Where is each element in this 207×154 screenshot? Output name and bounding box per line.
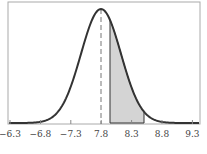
x-tick-label: 9.3 bbox=[185, 129, 200, 139]
x-tick-label: 8.8 bbox=[155, 129, 170, 139]
normal-curve-chart: −6.3−6.8−7.37.88.38.89.3 bbox=[0, 0, 207, 154]
x-tick-label: −6.3 bbox=[0, 129, 21, 139]
x-tick-label: 8.3 bbox=[124, 129, 139, 139]
x-tick-label: 7.8 bbox=[94, 129, 109, 139]
x-tick-label: −6.8 bbox=[29, 129, 51, 139]
x-tick-label: −7.3 bbox=[60, 129, 82, 139]
plot-frame bbox=[8, 2, 200, 124]
